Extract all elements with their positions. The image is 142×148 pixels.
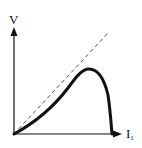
y-axis-arrow-icon — [11, 27, 18, 36]
x-axis-label-subscript: 1 — [130, 134, 134, 142]
x-axis-arrow-icon — [113, 131, 122, 138]
y-axis — [11, 27, 18, 134]
x-axis-label: I1 — [126, 127, 134, 142]
y-axis-label-text: V — [9, 12, 18, 27]
reference-diagonal-line — [14, 33, 108, 134]
y-axis-label: V — [9, 13, 18, 26]
diagram-canvas — [0, 0, 142, 148]
characteristic-curve — [14, 69, 112, 134]
x-axis — [14, 131, 122, 138]
